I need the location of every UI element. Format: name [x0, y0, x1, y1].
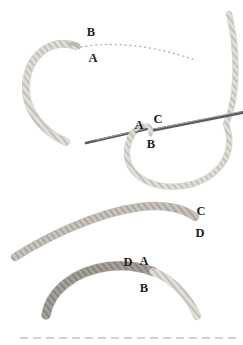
- step2-label-b: B: [147, 137, 155, 151]
- needle: [86, 112, 243, 143]
- step4-label-b: B: [140, 281, 148, 295]
- step2-working-thread: [127, 14, 236, 187]
- step2-label-a: A: [134, 118, 143, 132]
- step1-label-a: A: [88, 51, 97, 65]
- step1-thread-tail: [26, 44, 79, 142]
- stitch-guide-dotted-line: [81, 45, 195, 60]
- thread-tail: [26, 44, 76, 142]
- curved-row-new-stitch: [153, 272, 197, 317]
- curved-row-previous-stitches: [46, 266, 153, 315]
- stem-stitch-diagram: B A A C B C D: [0, 0, 243, 345]
- step1-label-b: B: [87, 25, 95, 39]
- stitch-line: [15, 206, 195, 257]
- step4-label-a: A: [139, 254, 148, 268]
- step3-stitch-line: [15, 206, 195, 257]
- working-thread-loop: [127, 14, 236, 187]
- working-thread-edge: [127, 14, 236, 187]
- step4-curved-row: [46, 266, 197, 316]
- step2-label-c: C: [153, 112, 162, 126]
- step3-label-d: D: [195, 226, 204, 240]
- step3-label-c: C: [196, 204, 205, 218]
- step4-label-d: D: [123, 255, 132, 269]
- stitch-diagram-canvas: B A A C B C D: [0, 0, 243, 345]
